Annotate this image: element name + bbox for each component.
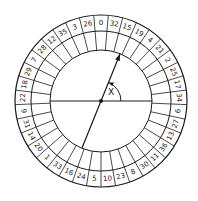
pocket-number: 7 [30, 56, 39, 64]
pocket-number: 14 [26, 130, 37, 142]
pocket-number: 30 [139, 160, 151, 172]
pocket-number: 6 [174, 108, 183, 114]
pocket-divider [15, 103, 50, 104]
pocket-number: 31 [21, 118, 31, 129]
pocket-divider [94, 15, 97, 50]
pocket-number: 0 [99, 19, 103, 27]
arrowhead-icon [115, 54, 120, 61]
pocket-number: 4 [146, 36, 155, 45]
pocket-number: 15 [121, 22, 132, 33]
pocket-number: 1 [43, 153, 52, 162]
pocket-number: 24 [76, 171, 87, 181]
pocket-number: 11 [149, 151, 161, 163]
pocket-number: 13 [165, 130, 176, 142]
pocket-number: 25 [168, 66, 179, 77]
pocket-number: 29 [23, 66, 34, 77]
roulette-wheel-diagram: 0321519421225173462713361130823105241633… [0, 0, 198, 201]
pocket-number: 18 [20, 79, 30, 89]
pocket-number: 26 [83, 19, 94, 28]
pocket-number: 8 [129, 168, 136, 177]
pocket-number: 20 [32, 141, 44, 153]
pocket-number: 3 [72, 23, 79, 32]
pocket-number: 17 [172, 79, 182, 89]
pocket-number: 32 [109, 19, 119, 28]
pocket-number: 36 [158, 141, 170, 153]
pocket-divider [152, 103, 187, 104]
pocket-divider [105, 15, 108, 50]
pocket-number: 16 [63, 167, 75, 178]
pocket-number: 28 [36, 43, 48, 55]
pocket-number: 22 [19, 93, 27, 102]
pocket-number: 10 [103, 174, 113, 183]
pocket-number: 12 [46, 34, 58, 46]
pocket-number: 23 [115, 171, 126, 181]
pocket-number: 35 [57, 27, 69, 38]
pocket-number: 33 [51, 160, 63, 172]
pocket-number: 19 [133, 27, 145, 38]
center-point [99, 99, 103, 103]
pocket-number: 27 [170, 118, 180, 129]
pocket-number: 5 [92, 175, 97, 183]
angle-label: X [108, 87, 114, 97]
pocket-number: 2 [163, 56, 172, 64]
pocket-number: 21 [154, 43, 166, 55]
pocket-number: 9 [19, 108, 28, 113]
pocket-number: 34 [175, 93, 183, 103]
